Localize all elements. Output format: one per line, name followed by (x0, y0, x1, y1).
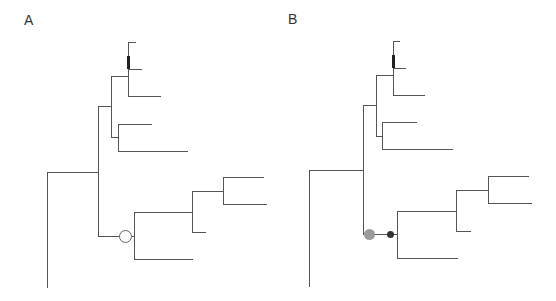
open-circle-node-marker (120, 231, 132, 243)
tree-panel-a (48, 43, 267, 288)
tree-panel-b (310, 42, 532, 287)
filled-circle-node-marker (364, 229, 375, 240)
tree-canvas (0, 0, 556, 301)
filled-circle-node-marker (387, 231, 394, 238)
